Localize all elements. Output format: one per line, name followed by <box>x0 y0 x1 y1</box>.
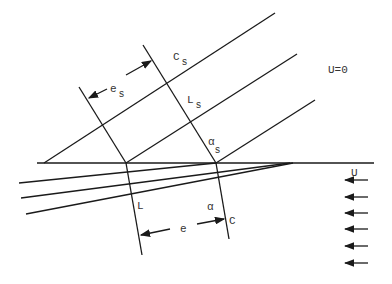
label-es: es <box>110 83 125 100</box>
lower-line-2 <box>21 163 290 198</box>
label-U0: U=0 <box>328 64 348 76</box>
label-U: U <box>351 167 358 179</box>
e-arrow-right <box>197 219 224 224</box>
upper-line-3 <box>216 100 315 163</box>
label-L: L <box>137 200 144 212</box>
lower-line-1 <box>19 163 216 183</box>
upper-line-1 <box>44 13 275 163</box>
e-arrow-left <box>141 229 170 235</box>
label-Cs: Cs <box>173 51 188 68</box>
label-Ls: Ls <box>187 94 202 111</box>
es-arrow-right <box>126 61 151 75</box>
label-C: C <box>229 215 236 227</box>
label-alpha: α <box>207 201 214 213</box>
diagram-canvas: Cs es Ls αs U=0 U L e α C <box>0 0 392 284</box>
label-e: e <box>180 223 187 235</box>
es-arrow-left <box>89 89 107 98</box>
normal-line-lower-right <box>216 163 229 239</box>
lower-line-3 <box>26 163 293 214</box>
flow-arrows <box>345 180 368 263</box>
